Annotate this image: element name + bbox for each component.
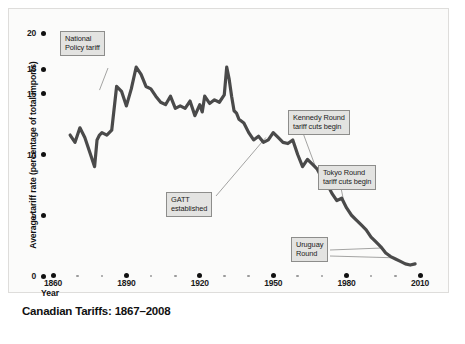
y-tick-label: 20 [14, 28, 36, 38]
annotation-kennedy-round: Kennedy Round tariff cuts begin [288, 110, 350, 135]
annotation-national-policy-tariff: National Policy tariff [60, 31, 105, 56]
x-tick-label: 1950 [253, 278, 293, 288]
y-tick-dot [41, 213, 46, 218]
x-tick-label: 1860 [33, 278, 73, 288]
plot-area: 2015151050 186018901920195019802010 Aver… [0, 0, 465, 344]
annotation-tokyo-round: Tokyo Round tariff cuts begin [318, 165, 376, 190]
x-tick-dot [271, 273, 276, 278]
x-tick-dot-minor [76, 275, 79, 278]
x-tick-label: 1890 [106, 278, 146, 288]
y-tick-dot [41, 152, 46, 157]
x-tick-dot [418, 273, 423, 278]
x-tick-dot-minor [394, 275, 397, 278]
y-tick-dot [41, 31, 46, 36]
y-tick-dot [41, 67, 46, 72]
y-axis-title: Average tariff rate (percentage of total… [28, 39, 38, 271]
x-tick-dot [51, 273, 56, 278]
x-tick-dot-minor [150, 275, 153, 278]
x-tick-dot-minor [296, 275, 299, 278]
leader-line-uruguay [330, 248, 381, 250]
chart-figure: 2015151050 186018901920195019802010 Aver… [0, 0, 465, 344]
x-tick-label: 1920 [180, 278, 220, 288]
annotation-gatt-established: GATT established [166, 192, 212, 217]
leader-line-national [99, 68, 108, 90]
x-tick-dot-minor [247, 275, 250, 278]
chart-title: Canadian Tariffs: 1867–2008 [22, 305, 170, 317]
x-tick-label: 1980 [327, 278, 367, 288]
x-axis-title: Year [41, 288, 59, 298]
x-tick-dot-minor [174, 275, 177, 278]
x-tick-label: 2010 [400, 278, 440, 288]
x-tick-dot [124, 273, 129, 278]
annotation-leader-lines [99, 68, 393, 258]
leader-line-uruguay-2 [330, 256, 393, 258]
annotation-uruguay-round: Uruguay Round [291, 237, 328, 262]
leader-line-gatt [216, 137, 266, 196]
x-tick-dot-minor [223, 275, 226, 278]
